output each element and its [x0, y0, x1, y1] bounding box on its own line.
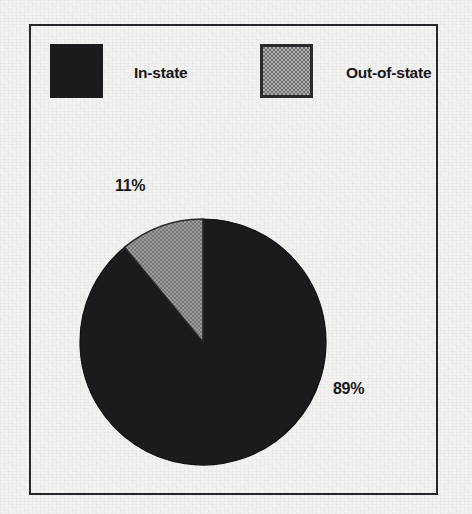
pie-chart: 11% 89%	[31, 26, 436, 493]
pie-chart-svg	[78, 217, 328, 467]
chart-frame: In-state Out-of-state 11% 89%	[29, 24, 438, 495]
pie-slice-label-in-state: 89%	[333, 381, 364, 397]
pie-slice-label-out-of-state: 11%	[115, 178, 145, 194]
